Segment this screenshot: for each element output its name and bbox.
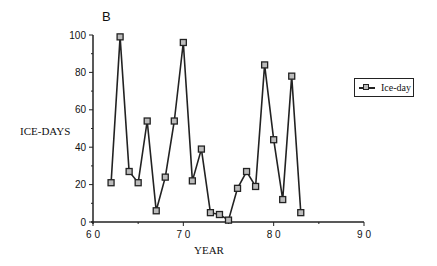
data-point-marker — [271, 137, 277, 143]
data-point-marker — [216, 212, 222, 218]
y-tick-label: 100 — [69, 30, 86, 41]
data-series — [108, 34, 304, 223]
data-point-marker — [253, 183, 259, 189]
data-point-marker — [189, 178, 195, 184]
data-point-marker — [207, 210, 213, 216]
data-point-marker — [180, 39, 186, 45]
data-point-marker — [198, 146, 204, 152]
data-point-marker — [135, 180, 141, 186]
data-point-marker — [298, 210, 304, 216]
x-tick-label: 7 0 — [176, 229, 190, 240]
data-point-marker — [171, 118, 177, 124]
data-point-marker — [244, 169, 250, 175]
y-tick-label: 0 — [80, 217, 86, 228]
legend-label: Ice-day — [381, 82, 411, 93]
data-point-marker — [280, 197, 286, 203]
data-point-marker — [108, 180, 114, 186]
series-line — [111, 37, 301, 220]
x-tick-label: 9 0 — [357, 229, 371, 240]
panel-label: B — [102, 9, 111, 24]
y-tick-label: 80 — [75, 67, 87, 78]
x-axis-label: YEAR — [194, 244, 224, 256]
data-point-marker — [117, 34, 123, 40]
x-tick-label: 8 0 — [267, 229, 281, 240]
data-point-marker — [162, 174, 168, 180]
data-point-marker — [262, 62, 268, 68]
data-point-marker — [226, 217, 232, 223]
data-point-marker — [144, 118, 150, 124]
data-point-marker — [126, 169, 132, 175]
x-tick-label: 6 0 — [86, 229, 100, 240]
y-tick-label: 20 — [75, 179, 87, 190]
legend: Ice-day — [354, 78, 414, 97]
y-tick-label: 60 — [75, 104, 87, 115]
data-point-marker — [289, 73, 295, 79]
y-tick-label: 40 — [75, 142, 87, 153]
legend-marker-icon — [359, 83, 375, 92]
data-point-marker — [153, 208, 159, 214]
y-axis-label: ICE-DAYS — [20, 125, 70, 137]
data-point-marker — [235, 185, 241, 191]
